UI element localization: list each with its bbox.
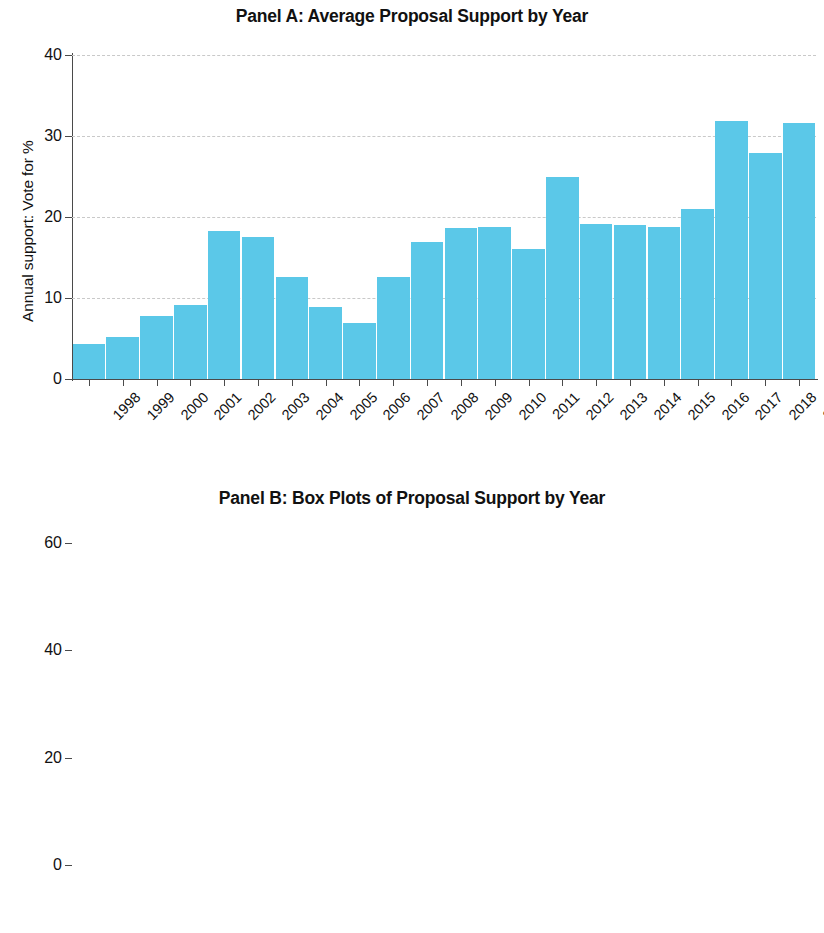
panel-a-plot-area bbox=[72, 55, 816, 379]
x-tick-mark bbox=[393, 379, 394, 386]
bar-2002 bbox=[208, 231, 241, 379]
bar-2014 bbox=[614, 225, 647, 379]
bar-2008 bbox=[411, 242, 444, 379]
y-tick-mark bbox=[65, 865, 72, 866]
x-tick-label-1999: 1999 bbox=[143, 389, 177, 423]
x-tick-mark bbox=[495, 379, 496, 386]
x-tick-label-2004: 2004 bbox=[312, 389, 346, 423]
panel-b-title: Panel B: Box Plots of Proposal Support b… bbox=[0, 488, 824, 509]
bar-2004 bbox=[276, 277, 309, 379]
bar-2007 bbox=[377, 277, 410, 379]
x-tick-mark bbox=[292, 379, 293, 386]
bar-2017 bbox=[715, 121, 748, 379]
x-tick-mark bbox=[258, 379, 259, 386]
x-tick-mark bbox=[765, 379, 766, 386]
y-tick-label: 0 bbox=[10, 370, 62, 388]
x-tick-label-2009: 2009 bbox=[481, 389, 515, 423]
gridline bbox=[72, 136, 816, 137]
y-tick-label: 40 bbox=[10, 641, 62, 659]
bar-2005 bbox=[309, 307, 342, 379]
y-tick-mark bbox=[65, 650, 72, 651]
panel-a-title: Panel A: Average Proposal Support by Yea… bbox=[0, 6, 824, 27]
x-tick-mark bbox=[596, 379, 597, 386]
x-tick-label-2002: 2002 bbox=[245, 389, 279, 423]
x-tick-label-2005: 2005 bbox=[346, 389, 380, 423]
x-tick-label-2019: 2019 bbox=[820, 389, 824, 423]
y-tick-mark bbox=[65, 758, 72, 759]
bar-2012 bbox=[546, 177, 579, 379]
panel-b: Panel B: Box Plots of Proposal Support b… bbox=[0, 466, 824, 933]
x-tick-mark bbox=[427, 379, 428, 386]
x-tick-label-2001: 2001 bbox=[211, 389, 245, 423]
bar-2015 bbox=[648, 227, 681, 379]
x-tick-label-2008: 2008 bbox=[448, 389, 482, 423]
x-tick-mark bbox=[731, 379, 732, 386]
figure-root: Panel A: Average Proposal Support by Yea… bbox=[0, 0, 824, 933]
gridline bbox=[72, 55, 816, 56]
x-tick-label-2018: 2018 bbox=[786, 389, 820, 423]
x-tick-label-2011: 2011 bbox=[549, 389, 582, 422]
x-tick-mark bbox=[123, 379, 124, 386]
y-tick-label: 0 bbox=[10, 856, 62, 874]
x-tick-mark bbox=[224, 379, 225, 386]
y-tick-mark bbox=[65, 136, 72, 137]
bar-2019 bbox=[783, 123, 816, 379]
bar-1998 bbox=[73, 344, 106, 379]
x-tick-label-2016: 2016 bbox=[718, 389, 752, 423]
y-tick-label: 20 bbox=[10, 208, 62, 226]
x-tick-label-2007: 2007 bbox=[414, 389, 448, 423]
x-tick-mark bbox=[664, 379, 665, 386]
x-tick-mark bbox=[799, 379, 800, 386]
x-tick-mark bbox=[461, 379, 462, 386]
bar-2016 bbox=[681, 209, 714, 379]
x-tick-mark bbox=[698, 379, 699, 386]
x-tick-mark bbox=[190, 379, 191, 386]
bar-2003 bbox=[242, 237, 275, 379]
panel-a: Panel A: Average Proposal Support by Yea… bbox=[0, 0, 824, 466]
y-tick-mark bbox=[65, 543, 72, 544]
bar-2009 bbox=[445, 228, 478, 379]
x-tick-label-2012: 2012 bbox=[583, 389, 617, 423]
x-tick-label-2017: 2017 bbox=[752, 389, 786, 423]
bar-1999 bbox=[106, 337, 139, 379]
x-tick-mark bbox=[359, 379, 360, 386]
x-tick-label-2006: 2006 bbox=[380, 389, 414, 423]
bar-2006 bbox=[343, 323, 376, 379]
x-tick-mark bbox=[529, 379, 530, 386]
panel-a-x-axis-line bbox=[72, 379, 818, 380]
y-tick-mark bbox=[65, 217, 72, 218]
y-tick-label: 60 bbox=[10, 534, 62, 552]
y-tick-mark bbox=[65, 379, 72, 380]
bar-2018 bbox=[749, 153, 782, 379]
x-tick-label-2013: 2013 bbox=[617, 389, 651, 423]
y-tick-mark bbox=[65, 298, 72, 299]
x-tick-label-2010: 2010 bbox=[515, 389, 549, 423]
x-tick-mark bbox=[89, 379, 90, 386]
bar-2013 bbox=[580, 224, 613, 379]
x-tick-mark bbox=[326, 379, 327, 386]
y-tick-label: 40 bbox=[10, 46, 62, 64]
bar-2010 bbox=[478, 227, 511, 379]
bar-2000 bbox=[140, 316, 173, 379]
x-tick-label-2003: 2003 bbox=[278, 389, 312, 423]
y-tick-mark bbox=[65, 55, 72, 56]
x-tick-mark bbox=[157, 379, 158, 386]
y-tick-label: 20 bbox=[10, 749, 62, 767]
y-tick-label: 10 bbox=[10, 289, 62, 307]
x-tick-label-2014: 2014 bbox=[650, 389, 684, 423]
x-tick-label-1998: 1998 bbox=[109, 389, 143, 423]
bar-2001 bbox=[174, 305, 207, 379]
bar-2011 bbox=[512, 249, 545, 379]
y-tick-label: 30 bbox=[10, 127, 62, 145]
x-tick-label-2015: 2015 bbox=[684, 389, 718, 423]
x-tick-mark bbox=[562, 379, 563, 386]
x-tick-mark bbox=[630, 379, 631, 386]
x-tick-label-2000: 2000 bbox=[177, 389, 211, 423]
